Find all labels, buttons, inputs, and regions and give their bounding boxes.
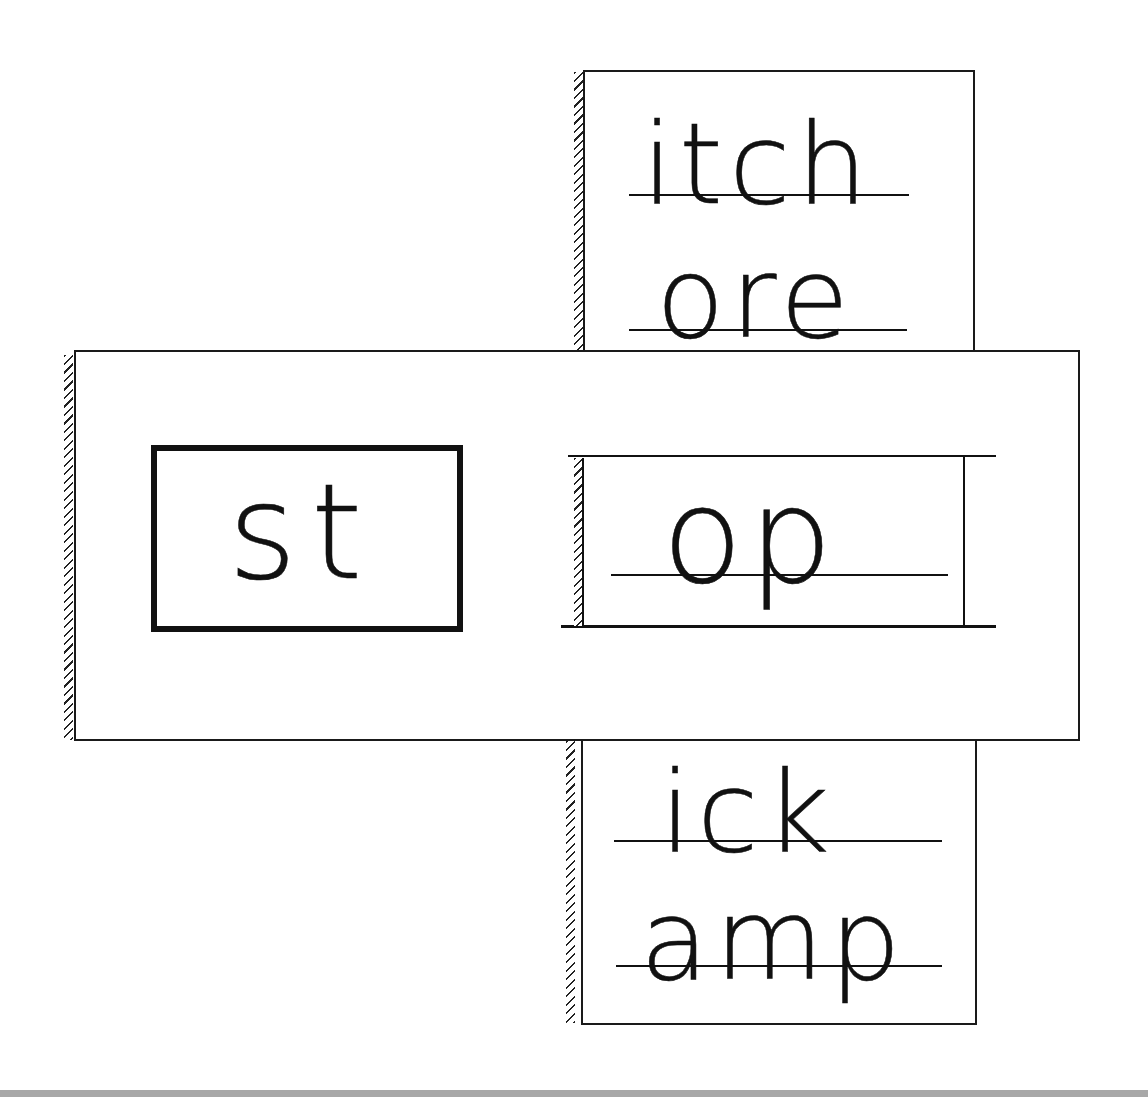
slider-shadow-hatch bbox=[64, 355, 73, 740]
window-top-edge bbox=[568, 455, 996, 457]
strip-top-shadow-hatch bbox=[574, 72, 583, 352]
window-left-edge bbox=[582, 458, 584, 626]
strip-bottom-shadow-hatch bbox=[566, 741, 575, 1023]
window-baseline bbox=[611, 574, 948, 576]
strip-top-baseline-1 bbox=[629, 194, 909, 196]
strip-word-itch: itch bbox=[642, 108, 874, 220]
strip-top-baseline-2 bbox=[629, 329, 907, 331]
strip-bottom-baseline-1 bbox=[614, 840, 942, 842]
strip-word-ore: ore bbox=[656, 242, 855, 354]
window-word-op: op bbox=[662, 470, 839, 602]
prefix-text: st bbox=[228, 466, 377, 598]
page-bottom-band bbox=[0, 1090, 1148, 1097]
window-bottom-edge bbox=[561, 625, 996, 628]
window-right-edge bbox=[963, 455, 965, 627]
strip-bottom-baseline-2 bbox=[616, 965, 942, 967]
strip-word-amp: amp bbox=[640, 884, 907, 996]
strip-word-ick: ick bbox=[660, 756, 836, 868]
